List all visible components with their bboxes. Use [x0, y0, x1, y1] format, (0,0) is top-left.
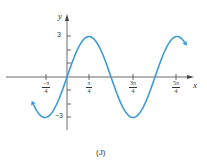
x-axis-label: x — [193, 80, 197, 90]
y-axis-arrow-icon — [65, 14, 69, 21]
x-tick-label-neg-pi-over-4: −π 4 — [36, 80, 56, 95]
y-tick-label-3: 3 — [57, 31, 61, 38]
x-tick-label-5pi-over-4: 5π 4 — [166, 80, 186, 95]
figure-caption: (J) — [96, 148, 105, 157]
y-tick-label-neg3: −3 — [55, 112, 63, 119]
x-tick-label-3pi-over-4: 3π 4 — [123, 80, 143, 95]
x-tick-label-pi-over-4: π 4 — [79, 80, 99, 95]
x-axis-arrow-icon — [187, 75, 194, 79]
y-axis-label: y — [58, 11, 62, 21]
